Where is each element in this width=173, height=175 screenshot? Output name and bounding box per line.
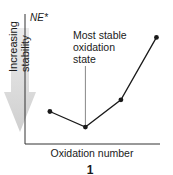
data-point-2	[83, 125, 88, 130]
most-stable-annotation: Most stable oxidation state	[73, 29, 127, 127]
annotation-line-2: oxidation	[73, 41, 115, 53]
annotation-line-1: Most stable	[73, 29, 127, 41]
increasing-stability-arrow: Increasing stability	[4, 21, 36, 132]
data-point-3	[119, 97, 124, 102]
x-axis-label: Oxidation number	[51, 147, 134, 159]
data-point-1	[47, 109, 52, 114]
annotation-line-3: state	[73, 53, 96, 65]
y-axis-label: NE*	[30, 12, 49, 23]
arrow-label-line-1: Increasing	[7, 21, 19, 72]
data-point-4	[154, 35, 159, 40]
figure-label: 1	[87, 163, 94, 175]
chart: Increasing stability NE* Most stable oxi…	[0, 0, 173, 175]
